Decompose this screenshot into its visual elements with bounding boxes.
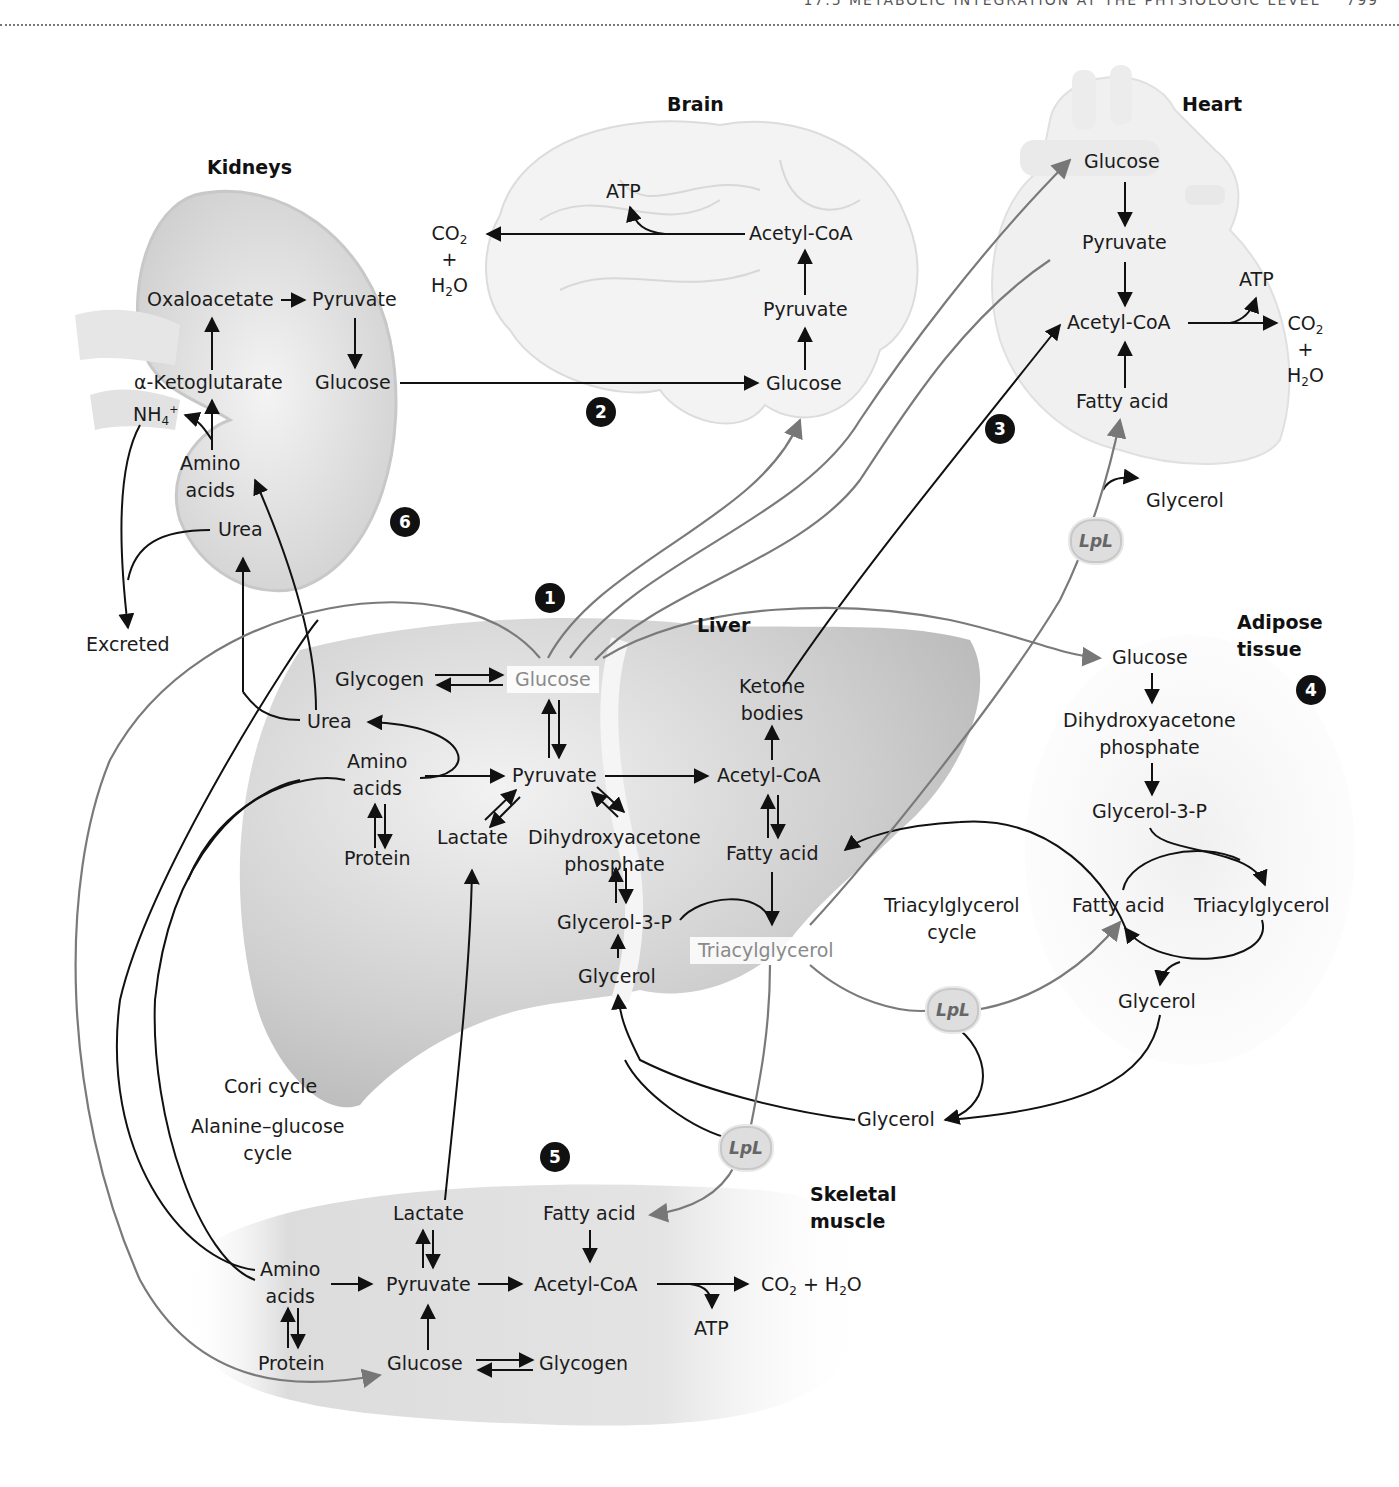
liver-glycerol: Glycerol bbox=[578, 963, 656, 990]
kidney-alpha-ketoglutarate: α-Ketoglutarate bbox=[134, 369, 283, 396]
step-marker-4: 4 bbox=[1296, 675, 1326, 705]
adipose-dhap: Dihydroxyacetonephosphate bbox=[1063, 707, 1236, 761]
heart-fatty-acid: Fatty acid bbox=[1076, 388, 1168, 415]
liver-pyruvate: Pyruvate bbox=[512, 762, 597, 789]
liver-glucose: Glucose bbox=[507, 666, 599, 693]
brain-co2-h2o: CO2 + H2O bbox=[431, 220, 468, 298]
muscle-acetyl-coa: Acetyl-CoA bbox=[534, 1271, 638, 1298]
step-marker-1: 1 bbox=[535, 583, 565, 613]
muscle-glycogen: Glycogen bbox=[539, 1350, 628, 1377]
muscle-atp: ATP bbox=[694, 1315, 729, 1342]
adipose-triacylglycerol: Triacylglycerol bbox=[1194, 892, 1330, 919]
liver-protein: Protein bbox=[344, 845, 411, 872]
liver-lactate: Lactate bbox=[437, 824, 508, 851]
organ-title-adipose: Adipose tissue bbox=[1237, 609, 1327, 663]
muscle-pyruvate: Pyruvate bbox=[386, 1271, 471, 1298]
liver-acetyl-coa: Acetyl-CoA bbox=[717, 762, 821, 789]
muscle-fatty-acid: Fatty acid bbox=[543, 1200, 635, 1227]
heart-glycerol: Glycerol bbox=[1146, 487, 1224, 514]
liver-glycogen: Glycogen bbox=[335, 666, 424, 693]
brain-shape bbox=[486, 121, 917, 423]
step-marker-3: 3 bbox=[985, 414, 1015, 444]
lpl-enzyme-muscle: LpL bbox=[720, 1126, 772, 1170]
muscle-glucose: Glucose bbox=[387, 1350, 463, 1377]
heart-glucose: Glucose bbox=[1084, 148, 1160, 175]
liver-dhap: Dihydroxyacetonephosphate bbox=[528, 824, 701, 878]
muscle-amino-acids: Aminoacids bbox=[260, 1256, 320, 1310]
alanine-glucose-cycle-label: Alanine–glucosecycle bbox=[191, 1113, 345, 1167]
organ-title-brain: Brain bbox=[667, 91, 724, 118]
heart-atp: ATP bbox=[1239, 266, 1274, 293]
liver-glycerol-3-p: Glycerol-3-P bbox=[557, 909, 672, 936]
liver-amino-acids: Aminoacids bbox=[347, 748, 407, 802]
organ-title-liver: Liver bbox=[697, 612, 750, 639]
adipose-glucose: Glucose bbox=[1112, 644, 1188, 671]
kidney-nh4: NH4+ bbox=[133, 401, 178, 428]
kidney-excreted: Excreted bbox=[86, 631, 170, 658]
liver-triacylglycerol: Triacylglycerol bbox=[690, 937, 842, 964]
brain-atp: ATP bbox=[606, 178, 641, 205]
cori-cycle-label: Cori cycle bbox=[224, 1073, 317, 1100]
liver-fatty-acid: Fatty acid bbox=[726, 840, 818, 867]
muscle-protein: Protein bbox=[258, 1350, 325, 1377]
lpl-enzyme-heart: LpL bbox=[1070, 519, 1122, 563]
adipose-fatty-acid: Fatty acid bbox=[1072, 892, 1164, 919]
organ-title-skeletal-muscle: Skeletal muscle bbox=[810, 1181, 900, 1235]
heart-acetyl-coa: Acetyl-CoA bbox=[1067, 309, 1171, 336]
organ-title-heart: Heart bbox=[1182, 91, 1242, 118]
muscle-co2-h2o: CO2 + H2O bbox=[761, 1271, 862, 1298]
step-marker-2: 2 bbox=[586, 397, 616, 427]
brain-pyruvate: Pyruvate bbox=[763, 296, 848, 323]
muscle-lactate: Lactate bbox=[393, 1200, 464, 1227]
triacylglycerol-cycle-label: Triacylglycerolcycle bbox=[884, 892, 1020, 946]
heart-co2-h2o: CO2 + H2O bbox=[1287, 310, 1324, 388]
blood-glycerol: Glycerol bbox=[857, 1106, 935, 1133]
kidney-pyruvate: Pyruvate bbox=[312, 286, 397, 313]
step-marker-6: 6 bbox=[390, 507, 420, 537]
kidney-glucose: Glucose bbox=[315, 369, 391, 396]
liver-ketone-bodies: Ketonebodies bbox=[739, 673, 805, 727]
adipose-glycerol: Glycerol bbox=[1118, 988, 1196, 1015]
heart-pyruvate: Pyruvate bbox=[1082, 229, 1167, 256]
kidney-amino-acids: Aminoacids bbox=[180, 450, 240, 504]
lpl-enzyme-adipose: LpL bbox=[927, 988, 979, 1032]
kidney-oxaloacetate: Oxaloacetate bbox=[147, 286, 274, 313]
brain-glucose: Glucose bbox=[766, 370, 842, 397]
liver-urea: Urea bbox=[307, 708, 352, 735]
adipose-glycerol-3-p: Glycerol-3-P bbox=[1092, 798, 1207, 825]
step-marker-5: 5 bbox=[540, 1142, 570, 1172]
kidney-urea: Urea bbox=[218, 516, 263, 543]
brain-acetyl-coa: Acetyl-CoA bbox=[749, 220, 853, 247]
organ-title-kidneys: Kidneys bbox=[207, 154, 292, 181]
